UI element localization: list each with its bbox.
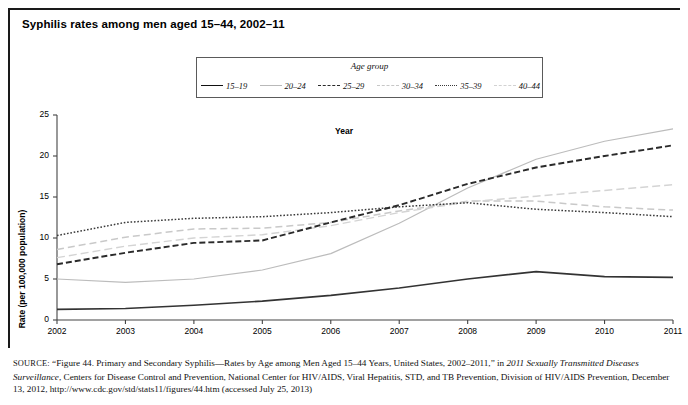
source-text-a: “Figure 44. Primary and Secondary Syphil… <box>50 358 507 368</box>
series-line-40-44 <box>57 185 673 258</box>
legend-item-label: 20–24 <box>285 81 306 91</box>
chart-legend: Age group 15–19 20–24 25–29 30–34 35–39 <box>196 57 543 98</box>
legend-line-sample-icon <box>260 82 282 90</box>
legend-item-25-29[interactable]: 25–29 <box>318 81 364 91</box>
legend-item-label: 15–19 <box>226 81 247 91</box>
legend-line-sample-icon <box>435 82 457 90</box>
source-note: SOURCE: “Figure 44. Primary and Secondar… <box>13 357 677 396</box>
source-text-b: , Centers for Disease Control and Preven… <box>13 372 669 395</box>
series-line-15-19 <box>57 272 673 310</box>
chart-plot-area: Rate (per 100,000 population) 0510152025… <box>0 104 688 334</box>
figure-frame-top-rule <box>8 8 680 10</box>
series-line-25-29 <box>57 145 673 264</box>
legend-line-sample-icon <box>494 82 516 90</box>
legend-line-sample-icon <box>201 82 223 90</box>
legend-item-15-19[interactable]: 15–19 <box>201 81 247 91</box>
legend-line-sample-icon <box>318 82 340 90</box>
figure-title: Syphilis rates among men aged 15–44, 200… <box>22 18 285 30</box>
legend-item-label: 40–44 <box>519 81 540 91</box>
line-chart-canvas <box>0 104 688 334</box>
legend-item-30-34[interactable]: 30–34 <box>377 81 423 91</box>
figure-page: Syphilis rates among men aged 15–44, 200… <box>0 0 688 405</box>
source-label: SOURCE: <box>13 359 50 368</box>
legend-item-40-44[interactable]: 40–44 <box>494 81 540 91</box>
legend-item-label: 35–39 <box>460 81 481 91</box>
series-line-30-34 <box>57 201 673 249</box>
legend-item-label: 25–29 <box>343 81 364 91</box>
legend-item-label: 30–34 <box>402 81 423 91</box>
series-line-20-24 <box>57 129 673 282</box>
legend-item-list: 15–19 20–24 25–29 30–34 35–39 40–44 <box>201 78 540 94</box>
legend-title: Age group <box>197 61 542 71</box>
legend-item-35-39[interactable]: 35–39 <box>435 81 481 91</box>
legend-item-20-24[interactable]: 20–24 <box>260 81 306 91</box>
series-line-35-39 <box>57 203 673 236</box>
legend-line-sample-icon <box>377 82 399 90</box>
